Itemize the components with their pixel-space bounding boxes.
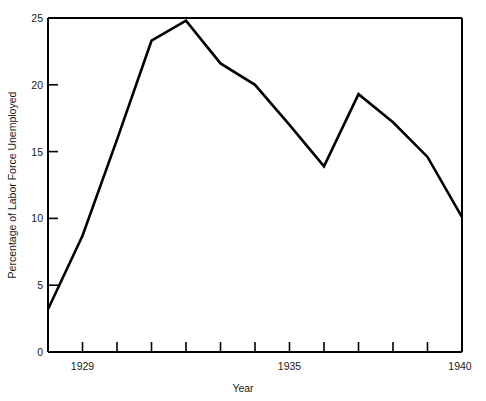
y-tick-label-15: 15 xyxy=(31,146,43,158)
y-tick-label-5: 5 xyxy=(37,279,43,291)
y-tick-label-25: 25 xyxy=(31,12,43,24)
x-axis-title: Year xyxy=(232,382,254,394)
chart-canvas: 25 20 15 10 5 0 1929 1935 1940 xyxy=(0,0,486,401)
x-tick-label-1929: 1929 xyxy=(71,360,95,372)
x-tick-label-1935: 1935 xyxy=(278,360,302,372)
y-tick-label-20: 20 xyxy=(31,79,43,91)
y-tick-label-10: 10 xyxy=(31,212,43,224)
y-axis-title: Percentage of Labor Force Unemployed xyxy=(6,91,18,278)
y-tick-label-0: 0 xyxy=(37,346,43,358)
unemployment-line-chart: 25 20 15 10 5 0 1929 1935 1940 xyxy=(0,0,486,401)
x-tick-label-1940: 1940 xyxy=(448,360,472,372)
chart-background xyxy=(0,0,486,401)
